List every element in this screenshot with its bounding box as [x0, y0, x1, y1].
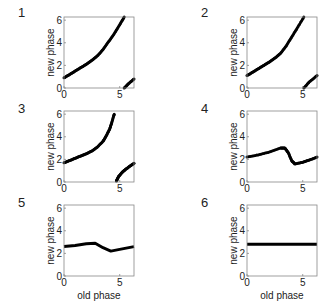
- x-axis-label: old phase: [260, 290, 304, 301]
- y-tick-label: 4: [239, 225, 245, 236]
- plot-panel-6: 024605new phaseold phase: [0, 0, 327, 308]
- x-tick-label: 0: [244, 277, 250, 288]
- y-axis-label: new phase: [228, 216, 239, 265]
- x-tick-label: 5: [300, 277, 306, 288]
- y-tick-label: 2: [239, 248, 245, 259]
- y-tick-label: 6: [239, 203, 245, 214]
- axes-frame: [247, 205, 317, 276]
